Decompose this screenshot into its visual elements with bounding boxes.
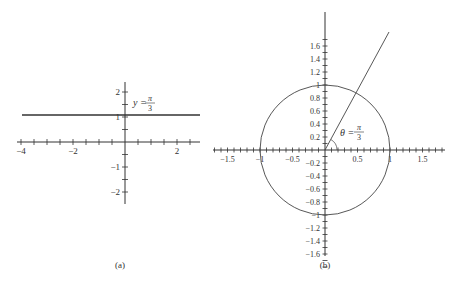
x-tick-label: −2 — [68, 146, 78, 156]
y-tick-label: −1 — [110, 162, 120, 172]
y-tick-label: −1.6 — [305, 250, 320, 259]
y-tick-label: −0.4 — [305, 172, 320, 181]
diagram-a: −4−22 21−1−2 y = π 3 (a) — [16, 82, 200, 270]
equation-numerator: π — [357, 123, 362, 132]
y-tick-label: −0.6 — [305, 185, 320, 194]
equation-denominator: 3 — [357, 133, 361, 142]
y-tick-label: 1.6 — [310, 42, 320, 51]
equation-lhs: y = — [132, 97, 147, 108]
y-tick-label: 0.6 — [310, 107, 320, 116]
x-tick-label: −0.5 — [285, 155, 300, 164]
y-tick-label: −0.2 — [305, 159, 320, 168]
equation-label: θ = π 3 — [340, 123, 364, 142]
y-tick-label: 1.4 — [310, 55, 320, 64]
y-tick-label: −2 — [110, 187, 120, 197]
x-tick-label: −4 — [16, 146, 26, 156]
y-tick-label: 1 — [116, 112, 121, 122]
diagram-b: −1.5−1−0.50.511.5 1.61.41.210.80.60.40.2… — [213, 12, 445, 270]
y-tick-label: 0.2 — [310, 133, 320, 142]
caption-b: (b) — [320, 260, 331, 270]
y-tick-label: 1.2 — [310, 68, 320, 77]
caption-a: (a) — [115, 260, 125, 270]
y-tick-label: −1 — [311, 211, 320, 220]
equation-denominator: 3 — [148, 104, 152, 113]
y-tick-label: 2 — [116, 87, 121, 97]
x-tick-label: 2 — [175, 146, 180, 156]
x-tick-labels: −4−22 — [16, 146, 179, 156]
y-tick-label: −1.4 — [305, 237, 320, 246]
y-tick-label: −1.2 — [305, 224, 320, 233]
x-tick-label: 1.5 — [418, 155, 428, 164]
equation-lhs: θ = — [340, 127, 354, 138]
y-tick-label: 0.4 — [310, 120, 320, 129]
figure-canvas: −4−22 21−1−2 y = π 3 (a) −1.5−1−0.50.511… — [0, 0, 465, 285]
y-tick-label: −0.8 — [305, 198, 320, 207]
x-tick-label: 0.5 — [353, 155, 363, 164]
equation-label: y = π 3 — [132, 94, 155, 113]
equation-numerator: π — [148, 94, 153, 103]
x-tick-label: −1.5 — [220, 155, 235, 164]
y-tick-label: 0.8 — [310, 94, 320, 103]
